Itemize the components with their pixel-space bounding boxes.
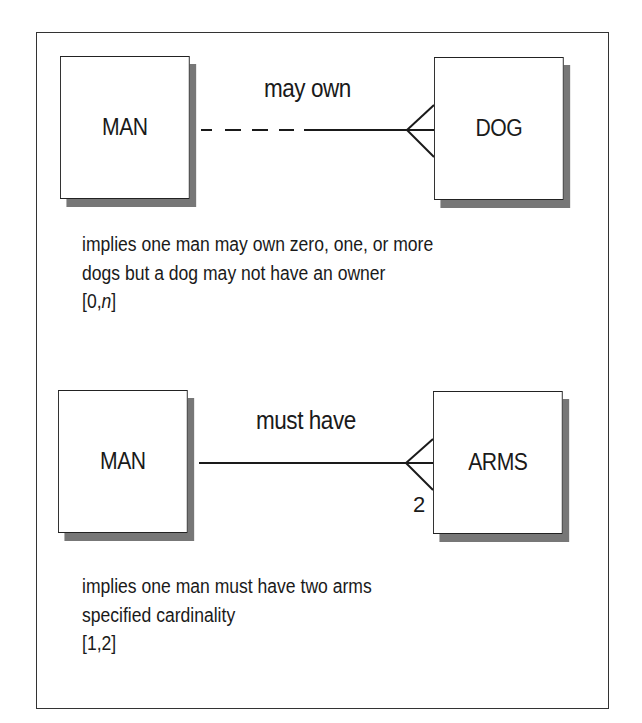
entity-label: ARMS	[468, 449, 527, 476]
relationship-label-may-own: may own	[264, 74, 351, 103]
cardinality-marker: 2	[413, 492, 425, 518]
entity-label: DOG	[475, 115, 522, 142]
description-1: implies one man may own zero, one, or mo…	[82, 230, 433, 316]
relationship-line-may-own	[201, 105, 434, 157]
relationship-label-must-have: must have	[256, 406, 356, 435]
relationship-line-must-have	[199, 439, 433, 490]
description-2: implies one man must have two arms speci…	[82, 572, 372, 658]
description-line: dogs but a dog may not have an owner	[82, 259, 433, 288]
cardinality-notation: [1,2]	[82, 629, 372, 658]
cardinality-notation: [0,n]	[82, 287, 433, 316]
description-line: implies one man must have two arms	[82, 572, 372, 601]
entity-arms: ARMS	[433, 391, 563, 534]
description-line: implies one man may own zero, one, or mo…	[82, 230, 433, 259]
entity-dog: DOG	[434, 57, 564, 200]
description-line: specified cardinality	[82, 601, 372, 630]
entity-man-1: MAN	[60, 56, 190, 199]
entity-man-2: MAN	[58, 390, 188, 533]
entity-label: MAN	[102, 114, 148, 141]
entity-label: MAN	[100, 448, 146, 475]
